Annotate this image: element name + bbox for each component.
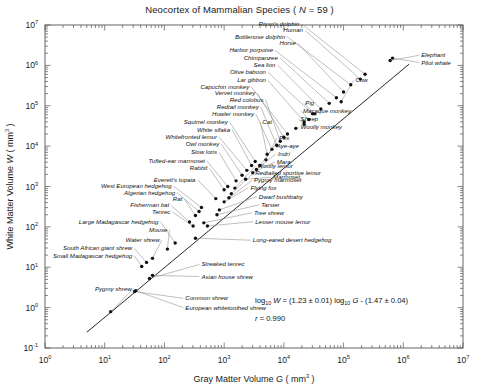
data-point[interactable] xyxy=(230,192,233,195)
tick-label: 103 xyxy=(25,181,38,192)
data-point[interactable] xyxy=(342,90,345,93)
species-label: Rabbit xyxy=(190,164,208,171)
species-label: Squirrel monkey xyxy=(184,118,229,125)
species-label: Howler monkey xyxy=(212,110,255,117)
data-point[interactable] xyxy=(191,224,194,227)
data-point[interactable] xyxy=(233,186,236,189)
scatter-plot: 10010110210310410510610710-1100101102103… xyxy=(0,0,479,392)
tick-label: 103 xyxy=(218,354,231,365)
species-label: Pig xyxy=(305,99,314,106)
leader-line xyxy=(171,205,189,222)
data-point[interactable] xyxy=(270,148,273,151)
species-label: Sea lion xyxy=(253,61,276,68)
tick-label: 102 xyxy=(25,221,38,232)
data-point[interactable] xyxy=(226,185,229,188)
species-label: West European hedgehog xyxy=(101,182,172,189)
figure-root: Neocortex of Mammalian Species ( N = 59 … xyxy=(0,0,479,392)
leader-line xyxy=(301,24,365,74)
leader-line xyxy=(260,122,267,154)
data-point[interactable] xyxy=(214,197,217,200)
data-point[interactable] xyxy=(197,210,200,213)
data-point[interactable] xyxy=(215,213,218,216)
tick-label: 106 xyxy=(25,60,38,71)
tick-label: 100 xyxy=(39,354,52,365)
species-label: Fisherman bat xyxy=(130,201,169,208)
data-point[interactable] xyxy=(151,274,154,277)
data-point[interactable] xyxy=(388,59,391,62)
data-point[interactable] xyxy=(335,96,338,99)
species-label: Flying fox xyxy=(250,184,277,191)
data-point[interactable] xyxy=(188,220,191,223)
leader-line xyxy=(224,188,248,202)
data-point[interactable] xyxy=(251,171,254,174)
data-point[interactable] xyxy=(244,178,247,181)
species-label: Rat xyxy=(173,195,183,202)
data-point[interactable] xyxy=(222,200,225,203)
species-label: Owl monkey xyxy=(186,140,220,147)
data-point[interactable] xyxy=(265,153,268,156)
leader-line xyxy=(221,144,242,175)
species-label: Indri xyxy=(278,150,291,157)
data-point[interactable] xyxy=(194,236,197,239)
data-point[interactable] xyxy=(240,173,243,176)
data-point[interactable] xyxy=(173,241,176,244)
species-label: Whitefronted lemur xyxy=(165,133,217,140)
species-label: Algerian hedgehog xyxy=(123,189,176,196)
data-point[interactable] xyxy=(227,196,230,199)
species-label: Harbor porpoise xyxy=(229,46,273,53)
data-point[interactable] xyxy=(109,310,112,313)
tick-label: 107 xyxy=(25,19,38,30)
data-point[interactable] xyxy=(140,265,143,268)
data-point[interactable] xyxy=(148,277,151,280)
species-label: Fox xyxy=(279,134,290,141)
y-axis-title: White Matter Volume W ( mm3 ) xyxy=(4,123,15,249)
svg-text:104: 104 xyxy=(278,354,291,365)
species-label: Aye-aye xyxy=(276,142,300,149)
x-axis-title: Gray Matter Volume G ( mm3 ) xyxy=(193,373,314,384)
species-label: Pygmy shrew xyxy=(95,285,132,292)
species-label: Tufted-ear marmoset xyxy=(149,157,206,164)
leader-line xyxy=(134,248,146,262)
leader-line xyxy=(232,130,251,166)
tick-label: 106 xyxy=(397,354,410,365)
species-label: Common shrew xyxy=(185,294,228,301)
data-point[interactable] xyxy=(206,224,209,227)
data-point[interactable] xyxy=(218,208,221,211)
data-point[interactable] xyxy=(134,289,137,292)
data-point[interactable] xyxy=(202,221,205,224)
svg-text:107: 107 xyxy=(457,354,470,365)
data-point[interactable] xyxy=(222,188,225,191)
leader-line xyxy=(207,222,253,226)
svg-text:100: 100 xyxy=(39,354,52,365)
data-point[interactable] xyxy=(253,160,256,163)
species-label: Redtail monkey xyxy=(217,103,260,110)
data-point[interactable] xyxy=(349,83,352,86)
leader-line xyxy=(219,152,236,181)
species-label: Human xyxy=(283,26,303,33)
data-point[interactable] xyxy=(245,169,248,172)
data-point[interactable] xyxy=(328,102,331,105)
tick-label: 10-1 xyxy=(24,342,38,353)
data-point[interactable] xyxy=(200,206,203,209)
leader-line xyxy=(134,256,142,267)
species-label: Cat xyxy=(262,118,272,125)
x-tick-labels: 100101102103104105106107 xyxy=(39,354,470,365)
species-label: Woolly monkey xyxy=(301,123,343,130)
leader-line xyxy=(280,58,329,104)
species-label: Marmoset xyxy=(273,173,300,180)
data-point[interactable] xyxy=(166,247,169,250)
data-point[interactable] xyxy=(391,56,394,59)
data-point[interactable] xyxy=(339,100,342,103)
data-point[interactable] xyxy=(250,164,253,167)
data-point[interactable] xyxy=(151,257,154,260)
species-label: Streaked tenrec xyxy=(201,260,244,267)
tick-label: 104 xyxy=(278,354,291,365)
data-point[interactable] xyxy=(194,214,197,217)
species-label: Small Madagascar hedgehog xyxy=(53,252,133,259)
species-label: Horse xyxy=(280,39,297,46)
tick-label: 105 xyxy=(337,354,350,365)
data-point[interactable] xyxy=(234,179,237,182)
data-point[interactable] xyxy=(145,261,148,264)
data-point[interactable] xyxy=(294,127,297,130)
species-label: Tree shrew xyxy=(254,209,285,216)
